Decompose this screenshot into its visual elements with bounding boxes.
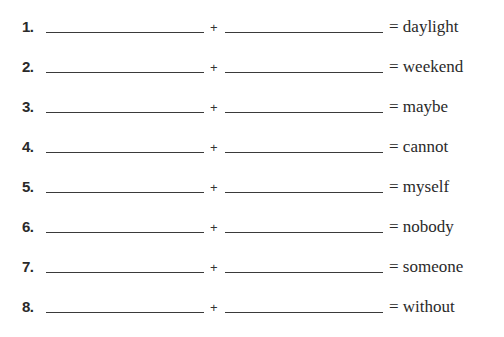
item-number: 4.	[22, 138, 34, 155]
compound-word: = daylight	[389, 17, 459, 37]
exercise-row-4: 4. + = cannot	[0, 134, 504, 158]
exercise-row-1: 1. + = daylight	[0, 14, 504, 38]
item-number: 5.	[22, 178, 34, 195]
exercise-row-7: 7. + = someone	[0, 254, 504, 278]
exercise-row-6: 6. + = nobody	[0, 214, 504, 238]
item-number: 7.	[22, 258, 34, 275]
exercise-row-5: 5. + = myself	[0, 174, 504, 198]
answer-blank-first[interactable]	[46, 232, 204, 233]
plus-sign: +	[210, 100, 218, 115]
compound-word: = myself	[389, 177, 449, 197]
plus-sign: +	[210, 300, 218, 315]
compound-word: = maybe	[389, 97, 448, 117]
compound-word: = nobody	[389, 217, 454, 237]
answer-blank-second[interactable]	[225, 232, 383, 233]
exercise-row-2: 2. + = weekend	[0, 54, 504, 78]
exercise-row-8: 8. + = without	[0, 294, 504, 318]
answer-blank-first[interactable]	[46, 112, 204, 113]
answer-blank-second[interactable]	[225, 32, 383, 33]
answer-blank-second[interactable]	[225, 152, 383, 153]
plus-sign: +	[210, 220, 218, 235]
plus-sign: +	[210, 140, 218, 155]
answer-blank-first[interactable]	[46, 32, 204, 33]
answer-blank-second[interactable]	[225, 72, 383, 73]
plus-sign: +	[210, 180, 218, 195]
exercise-row-3: 3. + = maybe	[0, 94, 504, 118]
plus-sign: +	[210, 260, 218, 275]
compound-word: = cannot	[389, 137, 448, 157]
plus-sign: +	[210, 20, 218, 35]
answer-blank-second[interactable]	[225, 312, 383, 313]
item-number: 3.	[22, 98, 34, 115]
answer-blank-second[interactable]	[225, 192, 383, 193]
item-number: 8.	[22, 298, 34, 315]
answer-blank-first[interactable]	[46, 312, 204, 313]
compound-word: = weekend	[389, 57, 463, 77]
item-number: 2.	[22, 58, 34, 75]
item-number: 1.	[22, 18, 34, 35]
answer-blank-first[interactable]	[46, 152, 204, 153]
plus-sign: +	[210, 60, 218, 75]
answer-blank-first[interactable]	[46, 72, 204, 73]
answer-blank-second[interactable]	[225, 272, 383, 273]
compound-word: = someone	[389, 257, 463, 277]
answer-blank-first[interactable]	[46, 272, 204, 273]
answer-blank-first[interactable]	[46, 192, 204, 193]
item-number: 6.	[22, 218, 34, 235]
compound-word: = without	[389, 297, 455, 317]
answer-blank-second[interactable]	[225, 112, 383, 113]
